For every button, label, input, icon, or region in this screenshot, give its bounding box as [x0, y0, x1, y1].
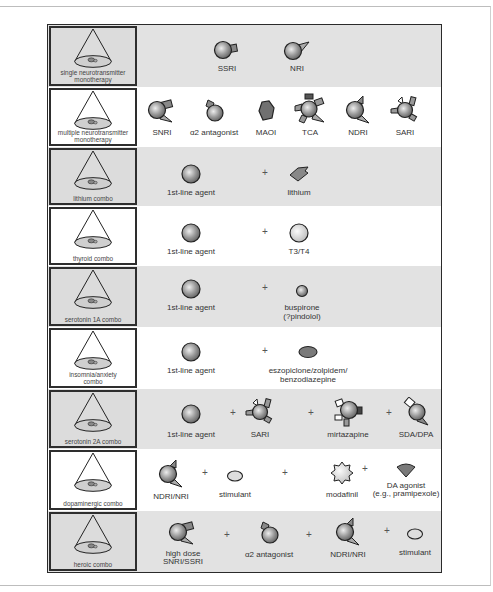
- plus-sign: +: [282, 467, 288, 478]
- plus-sign: +: [224, 529, 230, 540]
- plus-sign: +: [306, 529, 312, 540]
- row-thyroid-combo: thyroid combo 1st-line agent + T3/T4: [48, 206, 441, 266]
- item-label: T3/T4: [274, 247, 324, 256]
- item-label: stimulant: [392, 548, 438, 557]
- row-label-line2: monotherapy: [74, 76, 111, 83]
- item-sari: SARI: [240, 397, 280, 439]
- cone-pill-icon: [68, 514, 118, 556]
- first-line-agent-icon: [180, 341, 202, 363]
- item-tca: TCA: [290, 93, 330, 137]
- item-da-agonist: DA agonist(e.g., pramipexole): [370, 459, 442, 498]
- plus-sign: +: [386, 407, 392, 418]
- cone-pill-icon: [68, 330, 118, 372]
- item-label: 1st-line agent: [156, 303, 226, 312]
- item-label: SARI: [240, 430, 280, 439]
- snri-icon: [167, 519, 199, 547]
- item-label: mirtazapine: [318, 430, 378, 439]
- item-label: NDRI: [340, 128, 376, 137]
- item-label: SARI: [386, 128, 424, 137]
- modafinil-icon: [329, 459, 355, 487]
- row-label-line1: multiple neurotransmitter: [58, 129, 128, 136]
- cone-pill-icon: [68, 90, 118, 132]
- row-content: 1st-line agent + SARI + mirtazapine + SD…: [140, 389, 441, 449]
- alpha2-antagonist-icon: [200, 97, 228, 125]
- row-label-cell: insomnia/anxietycombo: [49, 328, 137, 388]
- item-stimulant: stimulant: [210, 463, 260, 499]
- item-lithium: lithium: [274, 163, 324, 197]
- item-label: NDRI/NRI: [148, 492, 194, 501]
- item-mirtazapine: mirtazapine: [318, 397, 378, 439]
- buspirone-icon: [291, 280, 313, 300]
- item-label: SSRI: [202, 64, 252, 73]
- item-snri: SNRI: [144, 97, 180, 137]
- ndri-icon: [333, 517, 363, 547]
- da-agonist-icon: [393, 459, 419, 479]
- item-label: NDRI/NRI: [320, 550, 376, 559]
- item-sda-dpa: SDA/DPA: [394, 397, 438, 439]
- cone-pill-icon: [68, 28, 118, 70]
- hypnotic-icon: [296, 341, 320, 363]
- item-label-line2: (?pindolol): [283, 312, 320, 321]
- alpha2-antagonist-icon: [255, 519, 283, 547]
- row-heroic-combo: heroic combo high doseSNRI/SSRI + α2 ant…: [48, 511, 441, 572]
- row-insomnia-anxiety-combo: insomnia/anxietycombo 1st-line agent + e…: [48, 327, 441, 389]
- item-label: buspirone: [284, 303, 319, 312]
- sari-icon: [389, 95, 421, 125]
- first-line-agent-icon: [180, 222, 202, 244]
- plus-sign: +: [262, 282, 268, 293]
- item-hypnotic: eszopiclone/zolpidem/benzodiazepine: [268, 341, 348, 384]
- row-lithium-combo: lithium combo 1st-line agent + lithium: [48, 147, 441, 206]
- item-t3-t4: T3/T4: [274, 222, 324, 256]
- item-label: 1st-line agent: [156, 366, 226, 375]
- item-label: 1st-line agent: [156, 188, 226, 197]
- stimulant-icon: [404, 521, 426, 545]
- tca-icon: [292, 93, 328, 125]
- row-label-cell: single neurotransmittermonotherapy: [49, 26, 137, 86]
- row-label-cell: multiple neurotransmittermonotherapy: [49, 88, 137, 146]
- item-ndri-nri: NDRI/NRI: [148, 459, 194, 501]
- row-label: dopaminergic combo: [51, 500, 135, 507]
- item-first-line-agent: 1st-line agent: [156, 163, 226, 197]
- row-dopaminergic-combo: dopaminergic combo NDRI/NRI + stimulant …: [48, 449, 441, 511]
- cone-pill-icon: [68, 150, 118, 192]
- row-label: lithium combo: [51, 195, 135, 202]
- sari-icon: [244, 397, 276, 427]
- item-label-line2: SNRI/SSRI: [163, 557, 203, 566]
- item-maoi: MAOI: [248, 97, 284, 137]
- item-label: SNRI: [144, 128, 180, 137]
- row-content: 1st-line agent + buspirone(?pindolol): [140, 266, 441, 327]
- cone-pill-icon: [68, 269, 118, 311]
- t3-t4-icon: [288, 222, 310, 244]
- item-alpha2-antagonist: α2 antagonist: [184, 97, 244, 137]
- plus-sign: +: [202, 467, 208, 478]
- row-label-cell: lithium combo: [49, 148, 137, 205]
- row-content: NDRI/NRI + stimulant + modafinil + DA ag…: [140, 449, 441, 511]
- row-label-cell: thyroid combo: [49, 207, 137, 265]
- item-label: lithium: [274, 188, 324, 197]
- item-buspirone: buspirone(?pindolol): [274, 280, 330, 321]
- row-multiple-neurotransmitter-monotherapy: multiple neurotransmittermonotherapy SNR…: [48, 87, 441, 147]
- item-label: 2 antagonist: [195, 128, 239, 137]
- cone-pill-icon: [68, 452, 118, 494]
- row-content: 1st-line agent + eszopiclone/zolpidem/be…: [140, 327, 441, 389]
- item-label-line2: benzodiazepine: [280, 375, 336, 384]
- row-single-neurotransmitter-monotherapy: single neurotransmittermonotherapy SSRI …: [48, 25, 441, 87]
- plus-sign: +: [262, 345, 268, 356]
- sda-dpa-icon: [400, 397, 432, 427]
- plus-sign: +: [384, 525, 390, 536]
- row-label: serotonin 2A combo: [51, 438, 135, 445]
- row-label: heroic combo: [51, 561, 135, 568]
- item-first-line-agent: 1st-line agent: [156, 401, 226, 439]
- plus-sign: +: [362, 463, 368, 474]
- row-label-line2: monotherapy: [74, 136, 111, 143]
- item-label: eszopiclone/zolpidem/: [269, 366, 348, 375]
- item-label: TCA: [290, 128, 330, 137]
- row-label-cell: dopaminergic combo: [49, 450, 137, 510]
- row-label-line2: combo: [83, 378, 102, 385]
- row-label-cell: heroic combo: [49, 512, 137, 571]
- item-alpha2-antagonist: α2 antagonist: [234, 519, 304, 559]
- lithium-icon: [286, 163, 312, 185]
- item-label: 2 antagonist: [250, 550, 294, 559]
- first-line-agent-icon: [180, 163, 202, 185]
- antidepressant-strategies-figure: single neurotransmittermonotherapy SSRI …: [47, 24, 442, 573]
